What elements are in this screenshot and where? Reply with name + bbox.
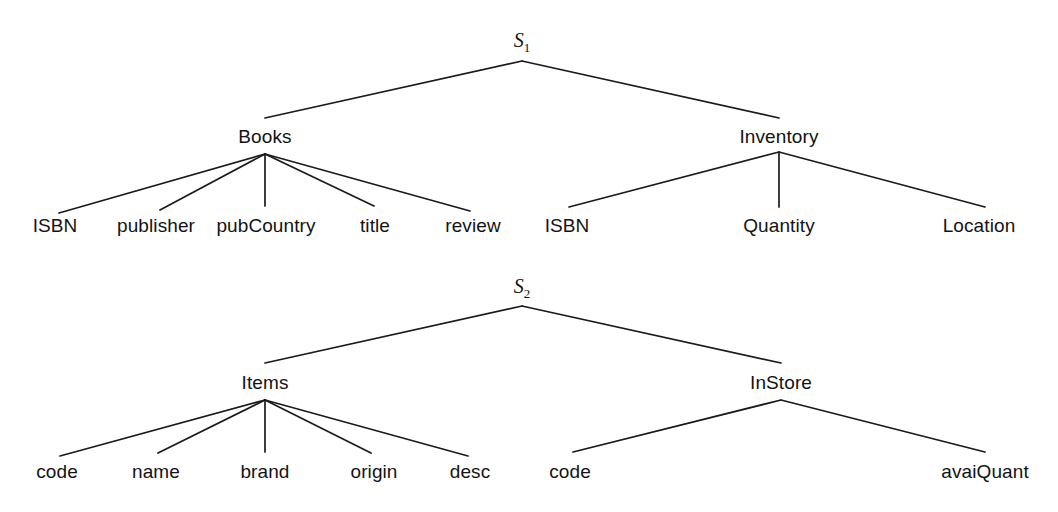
leaf-s2-items-brand: brand <box>240 462 289 481</box>
edge-s1-inventory-to-location-2 <box>779 152 985 207</box>
leaf-s1-books-review: review <box>445 216 501 235</box>
edge-s1-books-to-publisher-1 <box>160 154 265 210</box>
edge-s2-instore-to-code-0 <box>573 400 781 452</box>
schema-tree-diagram: S1BooksISBNpublisherpubCountrytitlerevie… <box>0 0 1058 512</box>
root-symbol: S <box>514 29 524 51</box>
root-subscript: 1 <box>524 40 531 55</box>
leaf-s1-inventory-quantity: Quantity <box>743 216 815 235</box>
edge-s2-items-to-desc-4 <box>265 400 468 456</box>
node-s2-instore: InStore <box>750 373 812 392</box>
leaf-s2-items-origin: origin <box>350 462 397 481</box>
edge-s1-books-to-title-3 <box>265 154 374 206</box>
leaf-s1-books-isbn: ISBN <box>33 216 78 235</box>
edge-s1-root-to-inventory <box>522 61 779 118</box>
node-s1-inventory: Inventory <box>739 127 818 146</box>
leaf-s2-items-name: name <box>132 462 180 481</box>
leaf-s2-instore-code: code <box>549 462 591 481</box>
root-node-s2: S2 <box>514 276 531 299</box>
leaf-s1-books-pubcountry: pubCountry <box>216 216 315 235</box>
root-node-s1: S1 <box>514 30 531 53</box>
edge-s1-books-to-review-4 <box>265 154 470 211</box>
edge-s2-items-to-name-1 <box>158 400 265 453</box>
node-s1-books: Books <box>238 127 291 146</box>
edge-s2-instore-to-avaiquant-1 <box>781 400 985 452</box>
leaf-s1-books-publisher: publisher <box>117 216 195 235</box>
edge-s1-inventory-to-isbn-0 <box>569 152 779 207</box>
edge-s2-items-to-code-0 <box>60 400 265 456</box>
tree-edge-layer <box>0 0 1058 512</box>
root-subscript: 2 <box>524 286 531 301</box>
edge-s1-root-to-books <box>265 61 522 118</box>
edge-s2-items-to-origin-3 <box>265 400 371 453</box>
leaf-s2-items-desc: desc <box>450 462 491 481</box>
edge-s2-root-to-items <box>265 306 522 363</box>
leaf-s1-books-title: title <box>360 216 390 235</box>
leaf-s2-items-code: code <box>36 462 78 481</box>
node-s2-items: Items <box>242 373 289 392</box>
leaf-s2-instore-avaiquant: avaiQuant <box>941 462 1029 481</box>
edge-s2-root-to-instore <box>522 306 781 363</box>
edge-s1-books-to-isbn-0 <box>59 154 265 213</box>
leaf-s1-inventory-isbn: ISBN <box>545 216 590 235</box>
leaf-s1-inventory-location: Location <box>943 216 1016 235</box>
root-symbol: S <box>514 275 524 297</box>
